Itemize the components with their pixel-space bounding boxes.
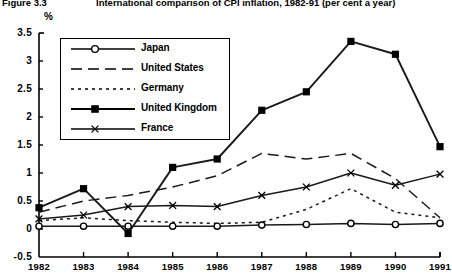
marker-united-kingdom bbox=[35, 204, 42, 211]
marker-japan bbox=[125, 223, 131, 229]
x-axis-tick-label: 1989 bbox=[329, 261, 373, 272]
y-axis-tick-label: 3.5 bbox=[2, 27, 32, 38]
x-axis-tick-label: 1985 bbox=[151, 261, 195, 272]
x-axis-tick-label: 1988 bbox=[284, 261, 328, 272]
y-axis-tick-label: 2.5 bbox=[2, 83, 32, 94]
legend-item-united-states[interactable]: United States bbox=[61, 59, 229, 79]
legend-label-united-kingdom: United Kingdom bbox=[141, 102, 217, 113]
series-line-japan bbox=[39, 223, 440, 226]
marker-united-kingdom bbox=[436, 143, 443, 150]
x-axis-tick-label: 1987 bbox=[240, 261, 284, 272]
legend-label-japan: Japan bbox=[141, 42, 169, 53]
marker-united-kingdom bbox=[392, 51, 399, 58]
x-axis-tick-label: 1986 bbox=[195, 261, 239, 272]
x-axis-tick-label: 1984 bbox=[106, 261, 150, 272]
marker-japan bbox=[392, 221, 398, 227]
x-axis-tick-label: 1982 bbox=[17, 261, 61, 272]
marker-japan bbox=[437, 220, 443, 226]
legend-item-japan[interactable]: Japan bbox=[61, 39, 229, 59]
marker-united-kingdom bbox=[303, 88, 310, 95]
series-line-germany bbox=[39, 189, 440, 224]
x-axis-tick-label: 1990 bbox=[373, 261, 417, 272]
marker-united-kingdom bbox=[169, 164, 176, 171]
legend-item-germany[interactable]: Germany bbox=[61, 79, 229, 99]
y-axis-tick-label: 2 bbox=[2, 111, 32, 122]
legend-swatch-france bbox=[69, 119, 137, 139]
chart-legend: JapanUnited StatesGermanyUnited KingdomF… bbox=[60, 38, 230, 140]
legend-swatch-united-kingdom bbox=[69, 99, 137, 119]
y-axis-tick-label: 0.5 bbox=[2, 195, 32, 206]
marker-united-kingdom bbox=[80, 185, 87, 192]
legend-label-united-states: United States bbox=[141, 62, 204, 73]
legend-swatch-japan bbox=[69, 39, 137, 59]
marker-japan bbox=[170, 223, 176, 229]
legend-item-france[interactable]: France bbox=[61, 119, 229, 139]
marker-japan bbox=[214, 223, 220, 229]
marker-united-kingdom bbox=[258, 107, 265, 114]
legend-marker-united-kingdom bbox=[91, 105, 99, 113]
marker-japan bbox=[36, 223, 42, 229]
y-axis-tick-label: 1 bbox=[2, 167, 32, 178]
marker-japan bbox=[348, 220, 354, 226]
chart-figure: Figure 3.3 International comparison of C… bbox=[0, 0, 452, 277]
marker-japan bbox=[259, 222, 265, 228]
legend-label-germany: Germany bbox=[141, 82, 184, 93]
series-line-france bbox=[39, 173, 440, 219]
y-axis-tick-label: 1.5 bbox=[2, 139, 32, 150]
legend-label-france: France bbox=[141, 122, 173, 133]
marker-japan bbox=[80, 223, 86, 229]
marker-japan bbox=[303, 221, 309, 227]
y-axis-tick-label: 0 bbox=[2, 223, 32, 234]
legend-marker-japan bbox=[92, 46, 99, 53]
marker-united-kingdom bbox=[214, 155, 221, 162]
x-axis-tick-label: 1991 bbox=[418, 261, 452, 272]
marker-united-kingdom bbox=[125, 230, 132, 237]
x-axis-tick-label: 1983 bbox=[62, 261, 106, 272]
legend-item-united-kingdom[interactable]: United Kingdom bbox=[61, 99, 229, 119]
legend-swatch-germany bbox=[69, 79, 137, 99]
legend-swatch-united-states bbox=[69, 59, 137, 79]
marker-united-kingdom bbox=[347, 38, 354, 45]
series-line-united-states bbox=[39, 153, 440, 217]
y-axis-tick-label: 3 bbox=[2, 55, 32, 66]
